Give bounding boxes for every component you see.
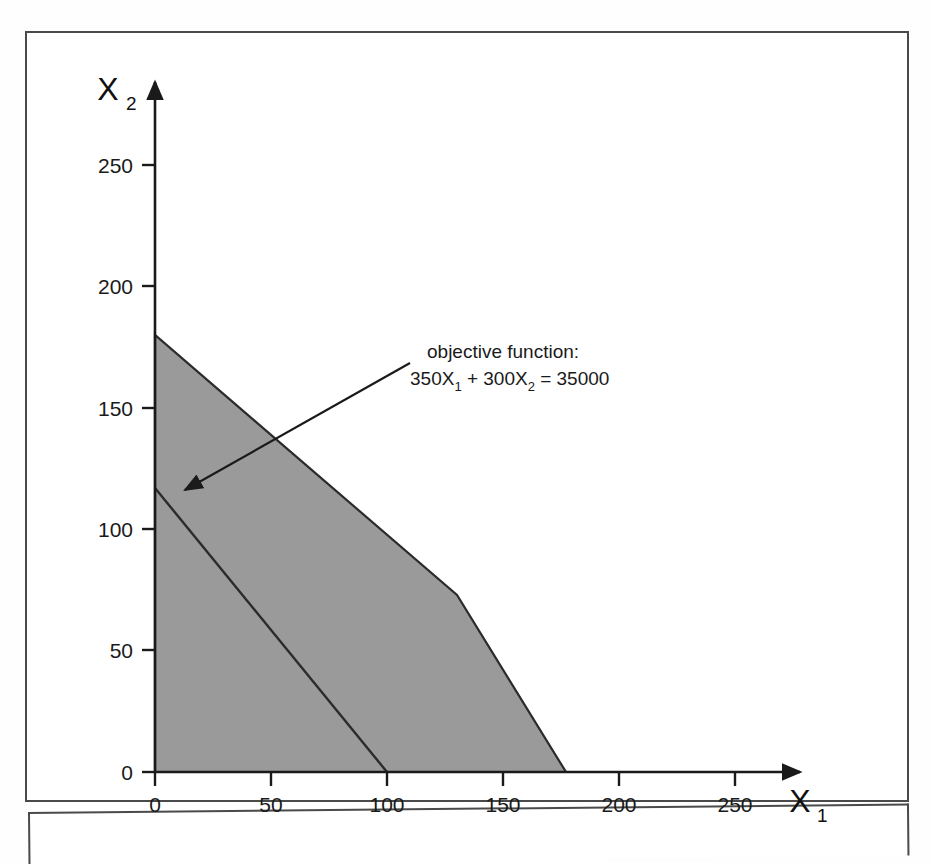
figure-bottom-frame-artifact <box>28 804 909 864</box>
figure-outer-frame <box>25 31 909 802</box>
